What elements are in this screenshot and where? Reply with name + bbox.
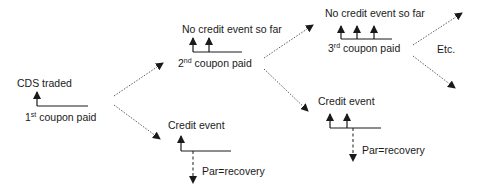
branch-arrow-up-1 [114, 63, 163, 96]
branch-arrow-down-1 [114, 105, 160, 139]
upper-2-title: No credit event so far [325, 7, 425, 19]
continuation-label: Etc. [437, 43, 455, 55]
branch-arrow-down-3 [413, 56, 455, 88]
lower-2-title: Credit event [318, 95, 375, 107]
branch-arrow-down-2 [264, 69, 308, 111]
lower-2-payoff: Par=recovery [362, 144, 425, 156]
upper-2-coupon-label: 3rd coupon paid [328, 42, 400, 54]
lower-1-payoff: Par=recovery [202, 165, 265, 177]
upper-1-title: No credit event so far [182, 23, 282, 35]
upper-1-timeline [193, 38, 242, 52]
upper-2-timeline [341, 26, 392, 39]
start-coupon-label: 1st coupon paid [25, 111, 96, 123]
start-title: CDS traded [17, 77, 72, 89]
lower-1-title: Credit event [168, 119, 225, 131]
start-timeline [37, 92, 88, 106]
upper-1-coupon-label: 2nd coupon paid [178, 57, 252, 69]
